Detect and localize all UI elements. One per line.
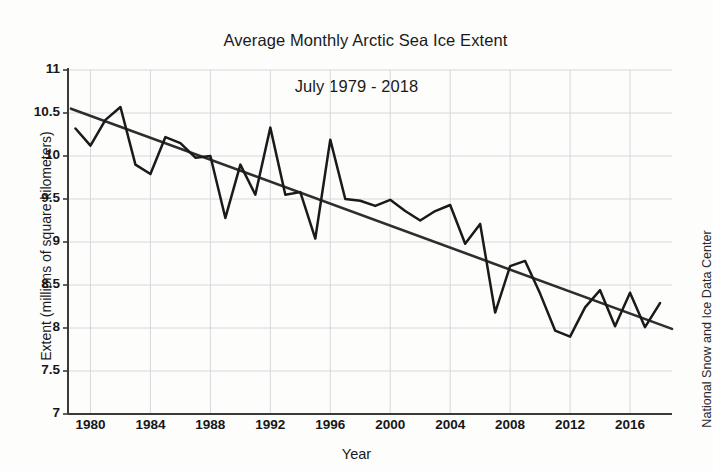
x-tick-label: 1992	[243, 417, 297, 432]
y-tick-label: 8	[14, 319, 60, 334]
data-line-path	[75, 107, 660, 337]
x-tick-label: 2016	[603, 417, 657, 432]
chart-figure: Average Monthly Arctic Sea Ice Extent Ju…	[0, 0, 713, 472]
axis-lines	[68, 68, 672, 414]
x-tick-label: 2008	[483, 417, 537, 432]
gridlines	[68, 70, 672, 414]
trendline-path	[71, 109, 672, 329]
y-tick-label: 9	[14, 233, 60, 248]
y-tick-label: 9.5	[14, 190, 60, 205]
x-tick-label: 2004	[423, 417, 477, 432]
plot-area	[0, 0, 713, 472]
y-tick-label: 7.5	[14, 362, 60, 377]
y-tick-label: 10.5	[14, 104, 60, 119]
x-tick-label: 1984	[123, 417, 177, 432]
x-tick-label: 2012	[543, 417, 597, 432]
x-tick-label: 1996	[303, 417, 357, 432]
y-tick-label: 7	[14, 405, 60, 420]
y-tick-label: 8.5	[14, 276, 60, 291]
x-tick-label: 1980	[63, 417, 117, 432]
x-tick-label: 2000	[363, 417, 417, 432]
y-tick-label: 11	[14, 61, 60, 76]
x-tick-label: 1988	[183, 417, 237, 432]
y-tick-label: 10	[14, 147, 60, 162]
